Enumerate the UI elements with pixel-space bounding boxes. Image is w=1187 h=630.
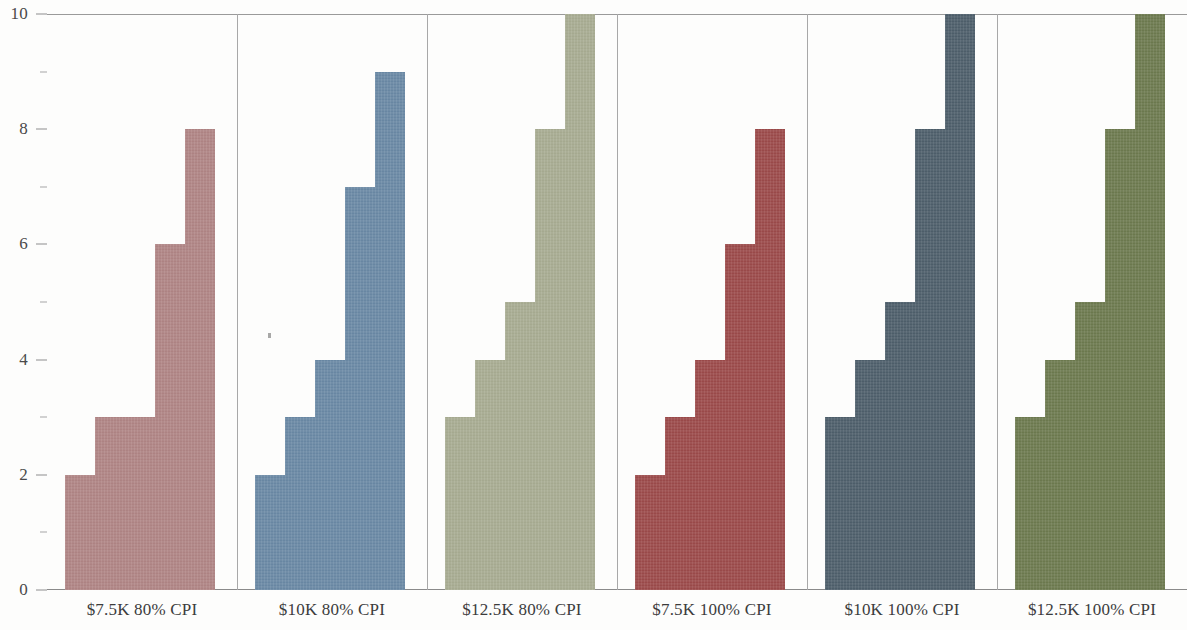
x-tick-label: $12.5K 100% CPI <box>997 600 1187 620</box>
y-tick-label: 10 <box>10 4 28 24</box>
facet-divider <box>997 14 998 590</box>
y-tick-label: 2 <box>19 465 28 485</box>
y-tick-major <box>36 244 47 245</box>
bar[interactable] <box>1075 302 1105 590</box>
facet-panel <box>237 14 427 590</box>
bar[interactable] <box>185 129 215 590</box>
x-axis: $7.5K 80% CPI$10K 80% CPI$12.5K 80% CPI$… <box>47 596 1187 630</box>
bar[interactable] <box>1105 129 1135 590</box>
y-tick-major <box>36 14 47 15</box>
y-tick-minor <box>40 302 47 303</box>
facet-panel <box>427 14 617 590</box>
y-tick-label: 4 <box>19 350 28 370</box>
facet-panel <box>47 14 237 590</box>
y-tick-label: 0 <box>19 580 28 600</box>
facet-panel <box>997 14 1187 590</box>
bar[interactable] <box>945 14 975 590</box>
bar[interactable] <box>885 302 915 590</box>
y-tick-label: 6 <box>19 234 28 254</box>
y-tick-label: 8 <box>19 119 28 139</box>
y-tick-minor <box>40 71 47 72</box>
y-tick-minor <box>40 532 47 533</box>
facet-divider <box>617 14 618 590</box>
facet-panel <box>617 14 807 590</box>
bar[interactable] <box>375 72 405 590</box>
y-tick-major <box>36 590 47 591</box>
bar[interactable] <box>915 129 945 590</box>
bar[interactable] <box>855 360 885 590</box>
bar[interactable] <box>95 417 125 590</box>
bar[interactable] <box>725 244 755 590</box>
y-tick-major <box>36 359 47 360</box>
bar[interactable] <box>1045 360 1075 590</box>
x-tick-label: $10K 100% CPI <box>807 600 997 620</box>
bar[interactable] <box>475 360 505 590</box>
bar[interactable] <box>665 417 695 590</box>
bar[interactable] <box>825 417 855 590</box>
plot-area <box>47 14 1187 590</box>
bar[interactable] <box>125 417 155 590</box>
bar[interactable] <box>255 475 285 590</box>
bar[interactable] <box>565 14 595 590</box>
y-tick-minor <box>40 417 47 418</box>
bar[interactable] <box>65 475 95 590</box>
bar[interactable] <box>445 417 475 590</box>
y-tick-major <box>36 129 47 130</box>
facet-divider <box>807 14 808 590</box>
bar[interactable] <box>635 475 665 590</box>
bar[interactable] <box>315 360 345 590</box>
facet-panel <box>807 14 997 590</box>
bar[interactable] <box>1015 417 1045 590</box>
y-tick-minor <box>40 186 47 187</box>
bar[interactable] <box>285 417 315 590</box>
bar[interactable] <box>155 244 185 590</box>
x-tick-label: $10K 80% CPI <box>237 600 427 620</box>
x-tick-label: $12.5K 80% CPI <box>427 600 617 620</box>
bar[interactable] <box>535 129 565 590</box>
bar[interactable] <box>345 187 375 590</box>
x-tick-label: $7.5K 100% CPI <box>617 600 807 620</box>
faceted-bar-chart: 0246810 $7.5K 80% CPI$10K 80% CPI$12.5K … <box>0 0 1187 630</box>
bar[interactable] <box>1135 14 1165 590</box>
bar[interactable] <box>505 302 535 590</box>
facet-divider <box>237 14 238 590</box>
scan-artifact-speck <box>268 333 271 338</box>
facet-divider <box>427 14 428 590</box>
bar[interactable] <box>695 360 725 590</box>
x-tick-label: $7.5K 80% CPI <box>47 600 237 620</box>
bar[interactable] <box>755 129 785 590</box>
y-tick-major <box>36 474 47 475</box>
y-axis: 0246810 <box>0 0 47 630</box>
